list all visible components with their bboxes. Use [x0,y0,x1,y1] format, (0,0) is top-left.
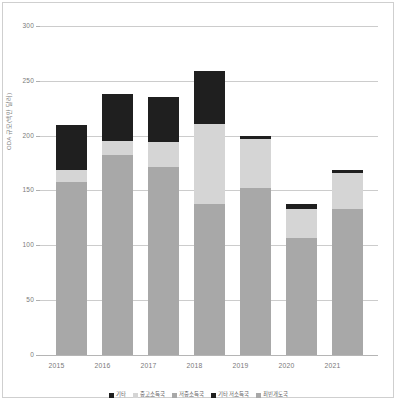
legend-swatch-icon [109,393,114,398]
y-tick-label-250: 250 [0,78,34,85]
bar-segment-2019-저중소득국[interactable] [240,136,271,139]
bar-segment-2017-중고소득국[interactable] [148,142,179,167]
y-tick-label-300: 300 [0,23,34,30]
y-tick-label-150: 150 [0,187,34,194]
legend-swatch-icon [256,393,261,398]
x-tick-label-2017: 2017 [131,363,166,370]
bar-segment-2020-중고소득국[interactable] [286,209,317,238]
legend-swatch-icon [211,393,216,398]
legend-item-2[interactable]: 저중소득국 [172,392,204,397]
legend-item-4[interactable]: 최빈개도국 [256,392,288,397]
gridline-baseline-0 [40,355,378,356]
legend-swatch-icon [133,393,138,398]
bar-segment-2019-중고소득국[interactable] [240,139,271,188]
legend-item-0[interactable]: 기타 [109,392,126,397]
plot-area [40,26,378,355]
x-tick-label-2020: 2020 [269,363,304,370]
legend-item-1[interactable]: 중고소득국 [133,392,165,397]
x-tick-label-2018: 2018 [177,363,212,370]
bar-segment-2021-중고소득국[interactable] [332,173,363,209]
legend-label: 기타 [116,392,126,397]
bar-segment-2018-기타[interactable] [194,204,225,355]
y-tick-label-200: 200 [0,133,34,140]
legend-label: 중고소득국 [140,392,165,397]
gridline-300 [40,26,378,27]
y-tick-label-50: 50 [0,297,34,304]
chart-figure: ODA 규모(백만 달러) 300 250 200 150 100 50 0 2… [0,0,397,401]
legend-label: 저중소득국 [179,392,204,397]
bar-segment-2018-저중소득국[interactable] [194,71,225,124]
bar-segment-2019-기타[interactable] [240,188,271,355]
bar-segment-2017-기타[interactable] [148,167,179,355]
legend-label: 최빈개도국 [263,392,288,397]
bar-segment-2021-저중소득국[interactable] [332,170,363,173]
bar-segment-2017-저중소득국[interactable] [148,97,179,142]
legend-item-3[interactable]: 기타 저소득국 [211,392,250,397]
x-tick-label-2016: 2016 [85,363,120,370]
bar-segment-2015-기타[interactable] [56,182,87,355]
bar-segment-2015-저중소득국[interactable] [56,125,87,170]
bar-segment-2016-중고소득국[interactable] [102,141,133,155]
bar-segment-2020-저중소득국[interactable] [286,204,317,209]
legend-swatch-icon [172,393,177,398]
legend-label: 기타 저소득국 [218,392,250,397]
x-tick-label-2021: 2021 [315,363,350,370]
x-tick-label-2015: 2015 [39,363,74,370]
bar-segment-2016-기타[interactable] [102,155,133,355]
bar-segment-2015-중고소득국[interactable] [56,170,87,182]
x-tick-label-2019: 2019 [223,363,258,370]
bar-segment-2016-저중소득국[interactable] [102,94,133,141]
y-tick-label-100: 100 [0,242,34,249]
bar-segment-2020-기타[interactable] [286,238,317,355]
y-tick-label-0: 0 [0,352,34,359]
bar-segment-2018-중고소득국[interactable] [194,124,225,204]
chart-legend: 기타중고소득국저중소득국기타 저소득국최빈개도국 [0,389,397,401]
bar-segment-2021-기타[interactable] [332,209,363,355]
